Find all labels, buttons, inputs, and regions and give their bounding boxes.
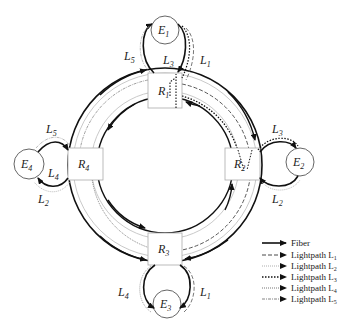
label-e2-top: L3 xyxy=(271,122,283,138)
label-e1-right: L1 xyxy=(199,53,211,69)
legend-item-l2: Lightpath L2 xyxy=(262,261,337,272)
svg-text:Lightpath L5: Lightpath L5 xyxy=(291,294,337,305)
label-e4-mid: L4 xyxy=(47,166,59,182)
label-e1-left: L5 xyxy=(123,49,135,65)
legend-item-l1: Lightpath L1 xyxy=(262,250,337,261)
label-e3-left: L4 xyxy=(117,285,129,301)
label-e1-mid: L3 xyxy=(162,53,174,69)
svg-text:Lightpath L4: Lightpath L4 xyxy=(291,283,337,294)
label-e4-top: L5 xyxy=(45,122,57,138)
router-r1: R1 xyxy=(148,73,182,108)
label-e3-right: L1 xyxy=(199,285,211,301)
label-e2-bottom: L2 xyxy=(271,192,283,208)
legend-item-l3: Lightpath L3 xyxy=(262,272,337,283)
svg-text:Lightpath L3: Lightpath L3 xyxy=(291,272,337,283)
svg-text:Fiber: Fiber xyxy=(291,238,310,248)
endpoint-e3: E3 xyxy=(153,290,181,318)
svg-text:Lightpath L1: Lightpath L1 xyxy=(291,250,337,261)
svg-text:Lightpath L2: Lightpath L2 xyxy=(291,261,337,272)
legend: Fiber Lightpath L1 Lightpath L2 Lightpat… xyxy=(262,238,337,305)
lightpath-l5-ring xyxy=(80,80,148,150)
router-r3: R3 xyxy=(148,233,182,265)
router-r4: R4 xyxy=(68,148,103,180)
endpoint-e4: E4 xyxy=(14,149,44,179)
legend-item-l4: Lightpath L4 xyxy=(262,283,337,294)
endpoint-e2: E2 xyxy=(286,148,314,176)
legend-item-l5: Lightpath L5 xyxy=(262,294,337,305)
router-r2: R2 xyxy=(225,148,260,180)
label-e4-bottom: L2 xyxy=(37,192,49,208)
ring-network-diagram: R1 R2 R3 R4 E1 E2 E3 E4 xyxy=(0,0,353,330)
legend-item-fiber: Fiber xyxy=(262,238,310,248)
endpoint-e1: E1 xyxy=(151,16,179,44)
